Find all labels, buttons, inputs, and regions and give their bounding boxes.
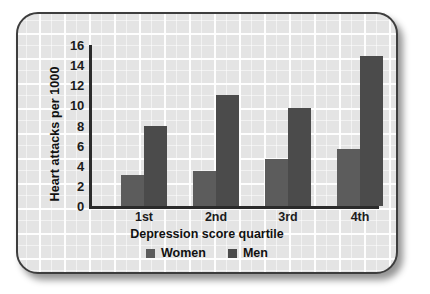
bar-men: [216, 95, 239, 206]
bar-women: [193, 171, 216, 206]
x-category-label: 3rd: [265, 210, 311, 224]
bar-men: [360, 56, 383, 206]
legend-swatch-icon: [228, 249, 237, 258]
x-category-label: 1st: [121, 210, 167, 224]
legend-label: Women: [161, 246, 206, 260]
bar-women: [265, 159, 288, 206]
legend-label: Men: [243, 246, 268, 260]
bar-women: [337, 149, 360, 206]
bar-women: [121, 175, 144, 206]
y-tick-label: 4: [77, 158, 84, 173]
y-tick-label: 2: [77, 178, 84, 193]
x-axis-line: [89, 206, 379, 209]
x-category-label: 2nd: [193, 210, 239, 224]
y-axis-line: [89, 45, 92, 207]
bar-group: 4th: [337, 45, 383, 206]
bar-group: 1st: [121, 45, 167, 206]
plot-area: 16 14 12 10 8 6 4 2 0 1st 2nd 3rd: [89, 45, 377, 206]
legend-item-men: Men: [228, 246, 268, 260]
y-tick-label: 12: [70, 78, 84, 93]
bar-group: 3rd: [265, 45, 311, 206]
bar-men: [144, 126, 167, 207]
y-axis-title: Heart attacks per 1000: [48, 59, 64, 209]
chart-card: Heart attacks per 1000 16 14 12 10 8 6 4…: [16, 12, 398, 274]
y-tick-label: 16: [70, 38, 84, 53]
y-tick-label: 8: [77, 118, 84, 133]
chart-legend: Women Men: [18, 246, 396, 260]
y-tick-label: 6: [77, 138, 84, 153]
legend-item-women: Women: [146, 246, 206, 260]
y-tick-label: 10: [70, 98, 84, 113]
y-tick-label: 14: [70, 58, 84, 73]
y-tick-label: 0: [77, 199, 84, 214]
x-category-label: 4th: [337, 210, 383, 224]
bar-men: [288, 108, 311, 206]
bar-group: 2nd: [193, 45, 239, 206]
legend-swatch-icon: [146, 249, 155, 258]
x-axis-title: Depression score quartile: [18, 227, 396, 241]
